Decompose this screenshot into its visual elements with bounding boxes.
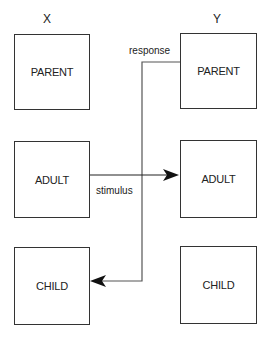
stimulus-label: stimulus — [96, 185, 133, 196]
response-label: response — [129, 45, 170, 56]
